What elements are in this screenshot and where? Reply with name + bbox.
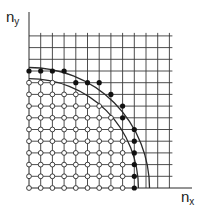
open-lattice-point xyxy=(62,151,67,156)
open-lattice-point xyxy=(73,151,78,156)
open-lattice-point xyxy=(109,151,114,156)
y-axis-label: ny xyxy=(6,8,19,27)
open-lattice-point xyxy=(27,80,32,85)
filled-lattice-point xyxy=(62,68,67,73)
open-lattice-point xyxy=(97,139,102,144)
open-lattice-point xyxy=(50,92,55,97)
filled-lattice-point xyxy=(26,68,31,73)
open-lattice-point xyxy=(109,115,114,120)
open-lattice-point xyxy=(97,162,102,167)
open-lattice-point xyxy=(62,174,67,179)
open-lattice-point xyxy=(38,174,43,179)
open-lattice-point xyxy=(62,127,67,132)
filled-lattice-point xyxy=(132,162,137,167)
open-lattice-point xyxy=(38,104,43,109)
inner-arc xyxy=(29,79,138,188)
open-lattice-point xyxy=(27,127,32,132)
open-lattice-point xyxy=(97,186,102,191)
open-lattice-point xyxy=(50,151,55,156)
filled-lattice-point xyxy=(108,92,113,97)
filled-lattice-point xyxy=(97,80,102,85)
open-lattice-point xyxy=(85,174,90,179)
open-lattice-point xyxy=(38,186,43,191)
filled-lattice-point xyxy=(50,68,55,73)
filled-lattice-point xyxy=(132,139,137,144)
open-lattice-point xyxy=(97,127,102,132)
open-lattice-point xyxy=(50,115,55,120)
open-lattice-point xyxy=(62,104,67,109)
open-lattice-point xyxy=(62,92,67,97)
open-lattice-point xyxy=(38,151,43,156)
lattice-shell-diagram: ny nx xyxy=(0,0,210,208)
open-lattice-point xyxy=(85,162,90,167)
open-lattice-point xyxy=(38,80,43,85)
open-lattice-point xyxy=(120,174,125,179)
open-lattice-point xyxy=(27,139,32,144)
open-lattice-point xyxy=(38,127,43,132)
open-lattice-point xyxy=(62,139,67,144)
open-lattice-point xyxy=(85,115,90,120)
open-lattice-point xyxy=(50,174,55,179)
open-lattice-point xyxy=(120,151,125,156)
open-lattice-point xyxy=(85,139,90,144)
filled-lattice-point xyxy=(38,68,43,73)
open-lattice-point xyxy=(109,186,114,191)
open-lattice-point xyxy=(97,115,102,120)
open-lattice-point xyxy=(73,162,78,167)
open-lattice-point xyxy=(38,92,43,97)
open-lattice-point xyxy=(38,115,43,120)
open-lattice-point xyxy=(85,104,90,109)
open-lattice-point xyxy=(120,186,125,191)
open-lattice-point xyxy=(73,139,78,144)
open-lattice-point xyxy=(97,151,102,156)
x-axis-label: nx xyxy=(181,188,194,207)
open-lattice-point xyxy=(85,151,90,156)
open-lattice-point xyxy=(73,92,78,97)
open-lattice-point xyxy=(50,139,55,144)
open-lattice-point xyxy=(62,115,67,120)
open-lattice-point xyxy=(73,115,78,120)
open-lattice-point xyxy=(120,139,125,144)
open-lattice-point xyxy=(73,174,78,179)
open-lattice-point xyxy=(73,186,78,191)
filled-lattice-point xyxy=(120,115,125,120)
open-lattice-point xyxy=(27,162,32,167)
open-lattice-point xyxy=(85,186,90,191)
open-lattice-point xyxy=(27,104,32,109)
open-lattice-point xyxy=(97,174,102,179)
open-lattice-point xyxy=(120,162,125,167)
open-lattice-point xyxy=(97,104,102,109)
open-lattice-point xyxy=(38,139,43,144)
open-lattice-point xyxy=(62,162,67,167)
open-lattice-point xyxy=(62,186,67,191)
filled-lattice-point xyxy=(85,80,90,85)
open-lattice-point xyxy=(50,186,55,191)
open-lattice-point xyxy=(38,162,43,167)
open-lattice-point xyxy=(27,115,32,120)
open-lattice-point xyxy=(109,174,114,179)
open-lattice-point xyxy=(73,127,78,132)
open-lattice-point xyxy=(109,139,114,144)
open-lattice-point xyxy=(27,186,32,191)
filled-lattice-point xyxy=(132,185,137,190)
open-lattice-point xyxy=(73,104,78,109)
filled-lattice-point xyxy=(132,150,137,155)
filled-lattice-point xyxy=(120,104,125,109)
open-lattice-point xyxy=(50,127,55,132)
open-lattice-point xyxy=(109,127,114,132)
filled-lattice-point xyxy=(73,80,78,85)
open-lattice-point xyxy=(50,80,55,85)
open-lattice-point xyxy=(109,162,114,167)
open-lattice-point xyxy=(50,162,55,167)
filled-lattice-point xyxy=(132,174,137,179)
open-lattice-point xyxy=(27,151,32,156)
open-lattice-point xyxy=(27,92,32,97)
open-lattice-point xyxy=(85,127,90,132)
filled-lattice-point xyxy=(132,127,137,132)
open-lattice-point xyxy=(27,174,32,179)
open-lattice-point xyxy=(50,104,55,109)
